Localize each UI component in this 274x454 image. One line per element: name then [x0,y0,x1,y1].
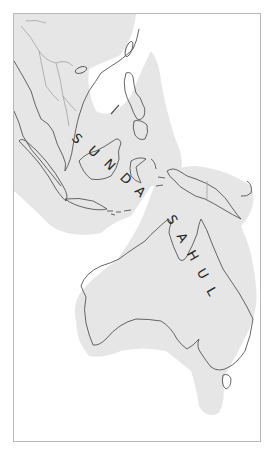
map-frame: S U N D A S A H U L [13,13,261,442]
map-canvas [14,14,261,442]
